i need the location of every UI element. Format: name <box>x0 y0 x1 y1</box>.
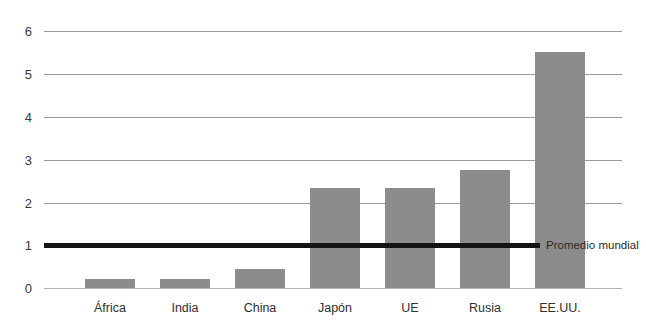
y-tick-label-2: 2 <box>0 197 32 210</box>
bar-japon <box>310 188 360 288</box>
x-tick-label-ue: UE <box>380 302 440 315</box>
bar-eeuu <box>535 52 585 288</box>
bar-chart: 6 5 4 3 2 1 0 Promedio mundial África In… <box>0 0 646 334</box>
bar-rusia <box>460 170 510 288</box>
x-tick-label-rusia: Rusia <box>455 302 515 315</box>
x-tick-label-china: China <box>230 302 290 315</box>
gridline-6 <box>44 31 622 32</box>
bar-china <box>235 269 285 288</box>
x-tick-label-india: India <box>155 302 215 315</box>
bar-ue <box>385 188 435 288</box>
y-tick-label-1: 1 <box>0 239 32 252</box>
y-tick-label-5: 5 <box>0 68 32 81</box>
gridline-0-baseline <box>44 288 622 289</box>
plot-area: 6 5 4 3 2 1 0 Promedio mundial África In… <box>0 0 646 334</box>
bar-india <box>160 279 210 288</box>
world-average-label: Promedio mundial <box>546 240 639 252</box>
x-tick-label-eeuu: EE.UU. <box>528 302 592 315</box>
y-tick-label-3: 3 <box>0 154 32 167</box>
y-tick-label-0: 0 <box>0 282 32 295</box>
y-tick-label-6: 6 <box>0 25 32 38</box>
bar-africa <box>85 279 135 288</box>
x-tick-label-japon: Japón <box>305 302 365 315</box>
world-average-line <box>44 243 540 248</box>
x-tick-label-africa: África <box>80 302 140 315</box>
y-tick-label-4: 4 <box>0 111 32 124</box>
